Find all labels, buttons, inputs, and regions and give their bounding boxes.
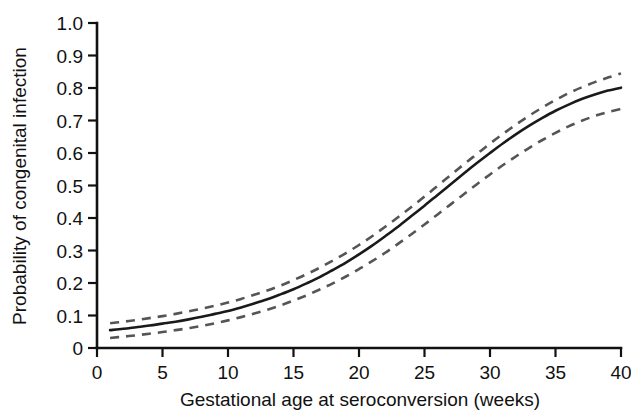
y-tick-label: 0.4 — [57, 208, 84, 229]
x-axis-title: Gestational age at seroconversion (weeks… — [180, 389, 540, 410]
data-series-group — [110, 73, 621, 338]
y-tick-label: 0.3 — [57, 241, 83, 262]
x-tick-label: 5 — [157, 362, 168, 383]
y-tick-label: 0.7 — [57, 111, 83, 132]
chart-figure: 00.10.20.30.40.50.60.70.80.91.0 05101520… — [0, 0, 631, 412]
x-tick-label: 20 — [348, 362, 369, 383]
x-tick-label: 30 — [479, 362, 500, 383]
y-tick-label: 0.2 — [57, 273, 83, 294]
x-tick-label: 0 — [92, 362, 103, 383]
y-tick-label: 0 — [72, 338, 83, 359]
chart-plot-area: 00.10.20.30.40.50.60.70.80.91.0 05101520… — [0, 0, 631, 412]
x-tick-label: 25 — [414, 362, 435, 383]
y-tick-label: 0.8 — [57, 78, 83, 99]
y-axis-ticks — [88, 23, 97, 348]
y-tick-label: 1.0 — [57, 13, 83, 34]
y-axis-title: Probability of congenital infection — [9, 47, 30, 325]
confidence-band-line — [110, 73, 621, 323]
y-tick-label: 0.5 — [57, 176, 83, 197]
y-tick-label: 0.6 — [57, 143, 83, 164]
y-axis-tick-labels: 00.10.20.30.40.50.60.70.80.91.0 — [57, 13, 84, 359]
x-tick-label: 40 — [610, 362, 631, 383]
x-tick-label: 15 — [283, 362, 304, 383]
y-tick-label: 0.1 — [57, 306, 83, 327]
y-tick-label: 0.9 — [57, 46, 83, 67]
x-tick-label: 10 — [217, 362, 238, 383]
fitted-curve-line — [110, 88, 621, 330]
confidence-band-line — [110, 109, 621, 338]
x-axis-ticks — [97, 348, 621, 357]
axes-group — [97, 23, 621, 348]
x-axis-tick-labels: 0510152025303540 — [92, 362, 631, 383]
x-tick-label: 35 — [545, 362, 566, 383]
